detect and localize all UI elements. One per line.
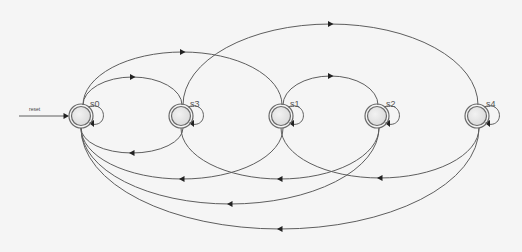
state-circle — [72, 107, 91, 126]
state-label: s0 — [90, 99, 100, 109]
state-circle — [468, 107, 487, 126]
arc-edge — [81, 128, 183, 153]
state-label: s3 — [190, 99, 200, 109]
state-s1[interactable]: s1 — [269, 99, 300, 128]
state-circle — [172, 107, 191, 126]
start-label: reset — [29, 106, 41, 112]
state-s3[interactable]: s3 — [169, 99, 200, 128]
arrowhead-icon — [277, 176, 283, 182]
arrowhead-icon — [129, 150, 135, 156]
arrowhead-icon — [179, 176, 185, 182]
diagram-canvas: reset s0s3s1s2s4 — [0, 0, 522, 252]
arc-edge — [183, 24, 478, 105]
state-circle — [368, 107, 387, 126]
transition-s2-to-s0 — [81, 128, 379, 207]
arc-edge — [81, 128, 379, 204]
arrowhead-icon — [328, 21, 334, 27]
transitions-layer — [81, 21, 499, 232]
transition-s3-to-s0 — [81, 128, 183, 156]
arrowhead-icon — [227, 201, 233, 207]
transition-s4-to-s1 — [281, 128, 479, 181]
start-arrow-layer: reset — [19, 106, 69, 119]
arrowhead-icon — [277, 226, 283, 232]
state-label: s1 — [290, 99, 300, 109]
arrowhead-icon — [130, 74, 136, 80]
state-s2[interactable]: s2 — [365, 99, 396, 128]
state-s0[interactable]: s0 — [69, 99, 100, 128]
state-label: s4 — [486, 99, 496, 109]
arc-edge — [181, 128, 379, 179]
state-circle — [272, 107, 291, 126]
arc-edge — [83, 52, 282, 105]
transition-s0-to-s1 — [83, 49, 282, 105]
state-label: s2 — [386, 99, 396, 109]
arrowhead-icon — [377, 175, 383, 181]
transition-s3-to-s4 — [183, 21, 478, 105]
arrowhead-icon — [328, 73, 334, 79]
arc-edge — [281, 128, 479, 178]
arrowhead-icon — [180, 49, 186, 55]
start-arrowhead-icon — [64, 113, 70, 119]
state-s4[interactable]: s4 — [465, 99, 496, 128]
